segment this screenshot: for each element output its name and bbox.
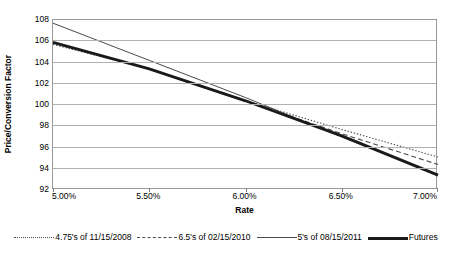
gridline xyxy=(53,168,436,169)
chart-container: Price/Conversion Factor 9294969810010210… xyxy=(0,0,458,253)
legend-item-label: 6.5's of 02/15/2010 xyxy=(178,232,250,242)
legend-item-label: 4.75's of 11/15/2008 xyxy=(55,232,131,242)
y-axis-tick-label: 102 xyxy=(35,78,49,88)
solid-line-swatch xyxy=(257,233,297,242)
x-axis-tick-label: 6.50% xyxy=(329,191,353,201)
plot-area xyxy=(52,19,437,189)
x-axis-tick-labels: 5.00%5.50%6.00%6.50%7.00% xyxy=(52,191,437,205)
chart-legend: 4.75's of 11/15/20086.5's of 02/15/20105… xyxy=(0,228,458,246)
y-axis-tick-labels: 92949698100102104106108 xyxy=(0,19,49,189)
legend-item[interactable]: 4.75's of 11/15/2008 xyxy=(14,232,137,242)
x-axis-tick-label: 5.00% xyxy=(52,191,76,201)
y-axis-tick-label: 108 xyxy=(35,14,49,24)
thick-line-swatch xyxy=(368,233,408,242)
gridline xyxy=(53,147,436,148)
y-axis-tick-label: 106 xyxy=(35,35,49,45)
series-lines xyxy=(53,20,438,190)
x-axis-tick-mark xyxy=(437,188,438,192)
x-axis-tick-label: 5.50% xyxy=(136,191,160,201)
gridline xyxy=(53,83,436,84)
legend-item-label: Futures xyxy=(409,232,438,242)
gridline xyxy=(53,104,436,105)
gridline xyxy=(53,125,436,126)
gridline xyxy=(53,62,436,63)
y-axis-tick-label: 94 xyxy=(40,163,49,173)
y-axis-tick-label: 96 xyxy=(40,142,49,152)
x-axis-tick-label: 6.00% xyxy=(232,191,256,201)
legend-item-label: 5's of 08/15/2011 xyxy=(298,232,362,242)
x-axis-title: Rate xyxy=(52,205,437,215)
y-axis-tick-label: 104 xyxy=(35,57,49,67)
dotted-line-swatch xyxy=(14,233,54,242)
gridline xyxy=(53,40,436,41)
dashed-line-swatch xyxy=(137,233,177,242)
y-axis-tick-label: 92 xyxy=(40,184,49,194)
legend-item[interactable]: 5's of 08/15/2011 xyxy=(257,232,368,242)
x-axis-tick-label: 7.00% xyxy=(413,191,437,201)
y-axis-tick-label: 98 xyxy=(40,120,49,130)
legend-item[interactable]: Futures xyxy=(368,232,444,242)
legend-item[interactable]: 6.5's of 02/15/2010 xyxy=(137,232,256,242)
y-axis-tick-label: 100 xyxy=(35,99,49,109)
